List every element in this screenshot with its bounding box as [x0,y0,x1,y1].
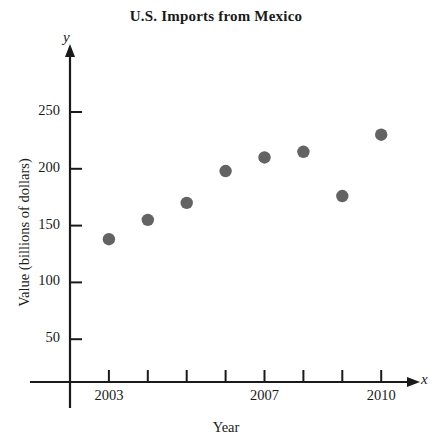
y-axis-tick-label: 250 [14,102,60,119]
plot-area [0,0,432,435]
data-points [103,129,388,246]
y-axis-ticks [70,112,82,339]
data-point [103,233,115,245]
x-axis-tick-label: 2010 [351,387,411,404]
x-axis-ticks [70,370,381,382]
data-point [375,129,387,141]
x-axis-tick-label: 2003 [79,387,139,404]
y-axis-tick-label: 150 [14,216,60,233]
y-axis-tick-label: 50 [14,329,60,346]
chart-figure: U.S. Imports from Mexico y x Value (bill… [0,0,432,435]
data-point [219,165,231,177]
data-point [336,190,348,202]
data-point [258,151,270,163]
x-axis-tick-label: 2007 [235,387,295,404]
data-point [181,197,193,209]
y-axis-tick-label: 100 [14,272,60,289]
data-point [297,146,309,158]
axes [30,44,420,408]
y-axis-arrowhead [65,44,75,57]
x-axis-arrowhead [407,377,420,387]
data-point [142,214,154,226]
y-axis-tick-label: 200 [14,159,60,176]
